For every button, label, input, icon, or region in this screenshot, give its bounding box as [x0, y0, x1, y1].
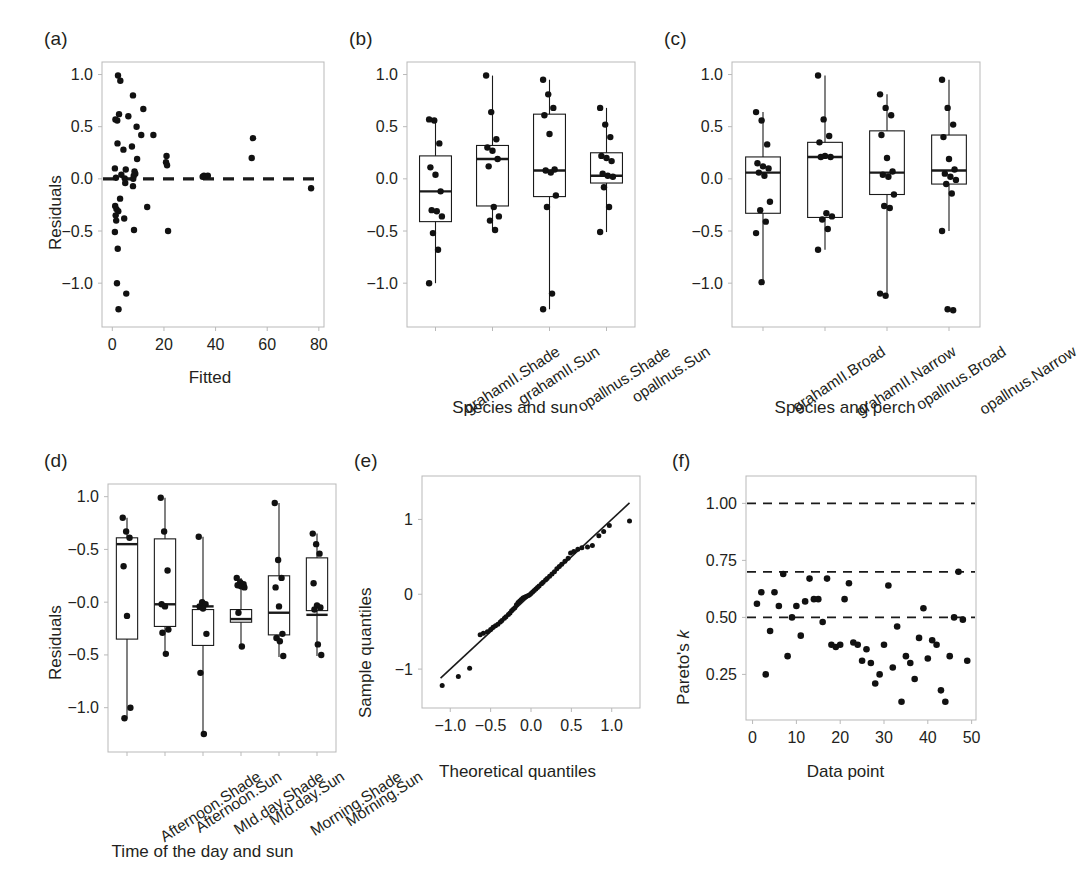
panel-d-xlabel: Time of the day and sun — [70, 842, 335, 862]
data-point — [953, 177, 959, 183]
data-point — [432, 171, 438, 177]
data-point — [762, 671, 769, 678]
data-point — [317, 604, 323, 610]
data-point — [203, 631, 209, 637]
data-point — [315, 641, 321, 647]
data-point — [437, 188, 443, 194]
data-point — [467, 666, 472, 671]
data-point — [127, 704, 133, 710]
box — [116, 538, 137, 639]
y-tick-label: 1.0 — [77, 488, 99, 505]
data-point — [579, 545, 584, 550]
data-point — [802, 598, 809, 605]
data-point — [134, 156, 140, 162]
data-point — [126, 535, 132, 541]
box — [534, 114, 566, 196]
data-point — [824, 575, 831, 582]
y-tick-label: 0.0 — [376, 170, 398, 187]
data-point — [767, 628, 774, 635]
panel-a-frame — [102, 62, 324, 327]
y-tick-label: −1 — [395, 661, 413, 678]
data-point — [943, 181, 949, 187]
data-point — [885, 174, 891, 180]
data-point — [440, 683, 445, 688]
data-point — [140, 106, 146, 112]
panel-a: (a) Residuals Fitted −1.0−0.50.00.51.002… — [40, 28, 340, 408]
data-point — [951, 614, 958, 621]
data-point — [197, 670, 203, 676]
data-point — [760, 163, 766, 169]
data-point — [278, 575, 284, 581]
data-point — [165, 228, 171, 234]
data-point — [877, 290, 883, 296]
data-point — [436, 140, 442, 146]
data-point — [131, 227, 137, 233]
data-point — [276, 603, 282, 609]
panel-c-label: (c) — [664, 28, 687, 50]
x-tick-label: 0 — [748, 729, 757, 746]
y-tick-label: 0.0 — [701, 170, 723, 187]
data-point — [494, 156, 500, 162]
y-tick-label: 0.25 — [706, 666, 737, 683]
data-point — [868, 660, 875, 667]
data-point — [120, 515, 126, 521]
data-point — [165, 626, 171, 632]
y-tick-label: −0.5 — [366, 223, 398, 240]
data-point — [492, 227, 498, 233]
data-point — [427, 164, 433, 170]
data-point — [434, 208, 440, 214]
data-point — [487, 217, 493, 223]
data-point — [610, 174, 616, 180]
data-point — [313, 541, 319, 547]
data-point — [553, 192, 559, 198]
data-point — [239, 643, 245, 649]
data-point — [123, 528, 129, 534]
data-point — [275, 557, 281, 563]
data-point — [117, 78, 123, 84]
data-point — [806, 575, 813, 582]
data-point — [771, 589, 778, 596]
data-point — [159, 630, 165, 636]
data-point — [881, 203, 887, 209]
data-point — [882, 105, 888, 111]
data-point — [493, 136, 499, 142]
data-point — [548, 169, 554, 175]
data-point — [150, 132, 156, 138]
data-point — [162, 603, 168, 609]
data-point — [898, 698, 905, 705]
box — [477, 145, 509, 206]
data-point — [877, 91, 883, 97]
data-point — [545, 91, 551, 97]
y-tick-label: 0 — [404, 586, 413, 603]
data-point — [911, 676, 918, 683]
data-point — [164, 162, 170, 168]
y-tick-label: −0.5 — [67, 646, 99, 663]
x-tick-label: 1.0 — [601, 717, 623, 734]
x-tick-label: 0 — [108, 336, 117, 353]
data-point — [889, 168, 895, 174]
data-point — [925, 655, 932, 662]
data-point — [601, 184, 607, 190]
data-point — [123, 290, 129, 296]
panel-d: (d) Residuals Time of the day and sun −1… — [40, 450, 350, 870]
data-point — [876, 671, 883, 678]
data-point — [196, 534, 202, 540]
data-point — [279, 631, 285, 637]
panel-d-label: (d) — [44, 450, 68, 472]
x-tick-label: 40 — [919, 729, 937, 746]
data-point — [456, 674, 461, 679]
data-point — [163, 153, 169, 159]
panel-f: (f) Pareto's k Data point 0.250.500.751.… — [668, 450, 998, 810]
data-point — [939, 228, 945, 234]
data-point — [916, 635, 923, 642]
panel-d-plot: −1.0−0.5−0.0−0.51.0 — [40, 474, 350, 824]
data-point — [761, 173, 767, 179]
y-tick-label: −1.0 — [691, 275, 723, 292]
data-point — [940, 134, 946, 140]
x-tick-label: 20 — [831, 729, 849, 746]
y-tick-label: 1.0 — [71, 66, 93, 83]
y-tick-label: 0.5 — [701, 118, 723, 135]
x-tick-label: 60 — [258, 336, 276, 353]
data-point — [601, 529, 606, 534]
